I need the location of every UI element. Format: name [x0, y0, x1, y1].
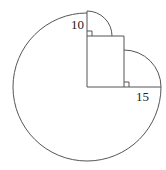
right-angle-marker-right: [124, 82, 129, 87]
label-top-radius: 10: [71, 17, 84, 32]
top-quarter-arc: [87, 11, 112, 36]
rectangle-outline: [87, 36, 124, 87]
right-angle-marker-top: [87, 31, 92, 36]
right-quarter-arc: [124, 50, 161, 87]
label-right-radius: 15: [136, 89, 149, 104]
diagram-canvas: 10 15: [0, 0, 166, 170]
